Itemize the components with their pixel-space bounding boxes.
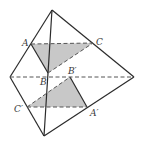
label-c: C bbox=[96, 37, 103, 47]
geometry-figure: A C B B′ C′ A′ bbox=[0, 0, 144, 144]
label-c-prime: C′ bbox=[14, 104, 23, 114]
label-a: A bbox=[21, 38, 29, 48]
triangle-abc bbox=[31, 43, 93, 73]
label-b: B bbox=[39, 77, 47, 87]
label-a-prime: A′ bbox=[89, 108, 99, 118]
label-b-prime: B′ bbox=[67, 66, 77, 76]
